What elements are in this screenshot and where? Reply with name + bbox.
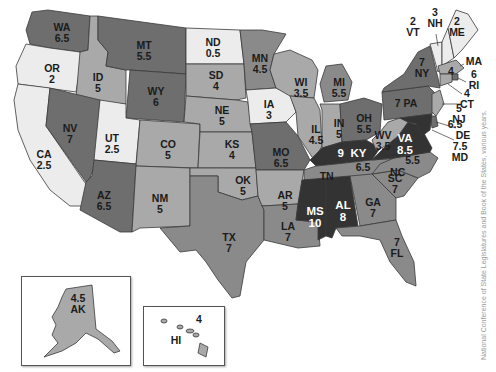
label-ks: KS4	[225, 139, 240, 161]
alaska-shape	[22, 277, 130, 365]
label-wy: WY6	[148, 86, 165, 108]
label-nc: NC5.5	[394, 161, 424, 172]
abbr-ak: AK	[70, 304, 85, 315]
label-id: ID5	[93, 72, 104, 94]
abbr-ma: MA	[466, 56, 482, 67]
label-in: IN5	[334, 118, 345, 140]
label-nm: NM5	[152, 193, 168, 215]
label-ut: UT2.5	[105, 133, 120, 155]
alaska-inset	[21, 276, 131, 366]
label-ms: MS10	[306, 205, 323, 229]
label-nd: ND0.5	[205, 37, 220, 59]
label-wv: WV3.5	[375, 130, 392, 152]
label-ar: AR5	[277, 190, 292, 212]
state-ny[interactable]	[382, 46, 440, 92]
label-la: LA7	[281, 221, 295, 243]
state-fl[interactable]	[336, 220, 416, 286]
state-nj[interactable]	[432, 90, 444, 116]
label-mo: MO6.5	[273, 147, 290, 169]
label-wi: WI3.5	[294, 77, 309, 99]
leader-ri	[458, 78, 466, 82]
label-oh: OH5.5	[356, 113, 372, 135]
label-mt: MT5.5	[136, 40, 151, 62]
source-credit: National Conference of State Legislature…	[480, 110, 487, 360]
hawaii-inset	[143, 306, 225, 366]
label-tx: TX7	[222, 232, 235, 254]
label-md: 7.5MD	[452, 141, 468, 163]
label-ca: CA2.5	[36, 149, 51, 171]
label-ak: 4.5 AK	[70, 293, 85, 315]
label-mn: MN4.5	[252, 53, 268, 75]
label-co: CO5	[160, 139, 176, 161]
label-va: VA8.5	[397, 132, 413, 156]
label-mi: MI5.5	[332, 77, 347, 99]
label-or: OR2	[44, 63, 60, 85]
label-nv: NV7	[63, 123, 78, 145]
label-ny: 7NY	[415, 57, 430, 79]
label-fl: 7FL	[391, 237, 404, 259]
abbr-hi: HI	[171, 335, 182, 346]
label-il: IL4.5	[309, 124, 324, 146]
value-ma: 4	[448, 66, 454, 77]
value-hi: 4	[196, 314, 202, 325]
label-de: 6.5DE	[448, 119, 463, 141]
label-pa: 7 PA	[395, 98, 418, 109]
label-az: AZ6.5	[97, 190, 112, 212]
label-ga: GA7	[365, 197, 381, 219]
label-ky: 9 KY	[338, 147, 367, 159]
label-vt: 2VT	[406, 16, 419, 38]
label-ne: NE5	[215, 105, 230, 127]
label-sd: SD4	[209, 70, 224, 92]
label-nh: 3NH	[427, 7, 442, 29]
label-al: AL8	[335, 199, 350, 223]
label-wa: WA6.5	[54, 22, 71, 44]
label-ok: OK5	[235, 175, 251, 197]
label-tn: TN6.5	[336, 165, 365, 176]
label-ia: IA3	[264, 99, 275, 121]
hawaii-shape	[144, 307, 224, 365]
label-me: 2ME	[449, 16, 465, 38]
